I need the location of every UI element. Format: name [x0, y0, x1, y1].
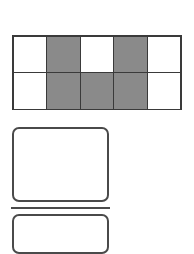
rounded-box-2: [12, 214, 109, 254]
grid-cell-0-3-shaded: [113, 36, 148, 74]
rounded-box-1: [12, 127, 109, 202]
divider-line: [11, 207, 110, 209]
shaded-grid: [12, 35, 182, 110]
grid-cell-0-2-white: [80, 36, 115, 74]
grid-cell-0-1-shaded: [46, 36, 81, 74]
grid-cell-1-2-shaded: [80, 72, 115, 110]
grid-cell-1-3-shaded: [113, 72, 148, 110]
grid-cell-1-1-shaded: [46, 72, 81, 110]
grid-cell-1-0-white: [13, 72, 48, 110]
grid-cell-0-4-white: [147, 36, 182, 74]
grid-cell-1-4-white: [147, 72, 182, 110]
grid-cell-0-0-white: [13, 36, 48, 74]
